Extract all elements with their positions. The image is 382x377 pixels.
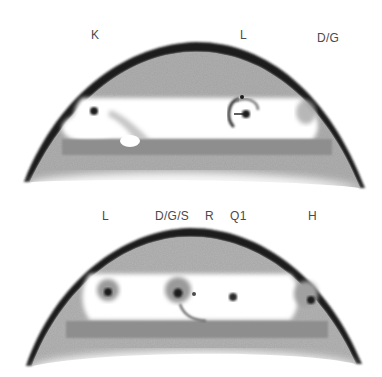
bar-top (62, 139, 332, 155)
spot-k (90, 107, 98, 115)
spot-r (192, 292, 196, 296)
section-top-image (0, 0, 382, 190)
spot-l-bottom (104, 288, 112, 296)
section-bottom-image (0, 190, 382, 377)
bar-bottom (66, 321, 328, 338)
spot-h (307, 296, 315, 304)
spot-q1 (229, 293, 237, 301)
hole-top (120, 135, 140, 147)
spot-dgs (174, 289, 183, 298)
figure: K L D/G (0, 0, 382, 377)
ring-h (294, 281, 318, 307)
